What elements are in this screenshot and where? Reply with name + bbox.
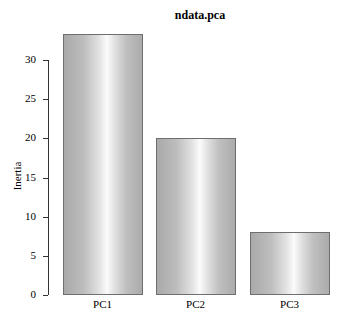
chart-title: ndata.pca: [0, 8, 345, 23]
x-tick-label: PC3: [250, 298, 329, 310]
y-tick-label: 20: [25, 132, 36, 143]
y-tick-label: 0: [31, 289, 37, 300]
y-tick: [43, 138, 48, 139]
y-tick: [43, 256, 48, 257]
y-tick-label: 15: [25, 172, 36, 183]
y-tick-label: 5: [31, 250, 37, 261]
y-tick: [43, 295, 48, 296]
y-tick: [43, 178, 48, 179]
y-tick: [43, 60, 48, 61]
y-tick-label: 10: [25, 211, 36, 222]
bar-pc2: [156, 138, 236, 295]
bar-pc1: [63, 34, 143, 295]
x-tick-label: PC1: [63, 298, 142, 310]
y-tick-label: 30: [25, 54, 36, 65]
y-tick-label: 25: [25, 93, 36, 104]
y-axis-label: Inertia: [11, 151, 23, 201]
x-tick-label: PC2: [156, 298, 235, 310]
y-tick: [43, 99, 48, 100]
y-axis-line: [48, 60, 49, 295]
bar-pc3: [250, 232, 330, 295]
y-tick: [43, 217, 48, 218]
